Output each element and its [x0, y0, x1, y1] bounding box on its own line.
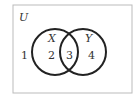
region-outside: 1 [21, 49, 28, 62]
region-x-only: 2 [48, 49, 55, 62]
region-intersection: 3 [66, 49, 73, 62]
venn-diagram: U X Y 1 2 3 4 [0, 0, 137, 100]
region-y-only: 4 [88, 49, 95, 62]
set-x-label: X [47, 32, 57, 45]
universe-label: U [19, 11, 29, 24]
